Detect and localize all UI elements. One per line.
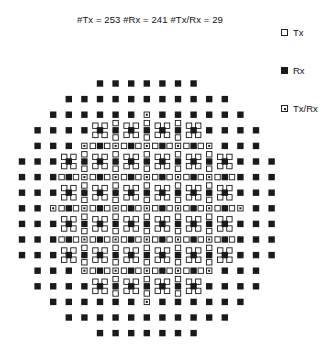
rx-element bbox=[128, 205, 134, 211]
rx-element bbox=[159, 143, 165, 149]
tx-element bbox=[175, 276, 180, 281]
tx-element bbox=[144, 183, 149, 188]
rx-element bbox=[190, 80, 196, 86]
rx-element bbox=[253, 158, 259, 164]
rx-element bbox=[97, 268, 103, 274]
rx-element bbox=[159, 268, 165, 274]
rx-element bbox=[128, 80, 134, 86]
tx-element bbox=[113, 152, 118, 157]
rx-element bbox=[253, 143, 259, 149]
rx-element bbox=[222, 299, 228, 305]
rx-element bbox=[34, 158, 40, 164]
rx-element bbox=[253, 127, 259, 133]
rx-element bbox=[128, 252, 134, 258]
rx-element bbox=[222, 252, 228, 258]
tx-element bbox=[113, 135, 118, 140]
rx-element bbox=[34, 127, 40, 133]
rx-element bbox=[253, 236, 259, 242]
tx-element bbox=[207, 260, 212, 265]
txrx-dot bbox=[52, 207, 54, 209]
rx-element bbox=[175, 112, 181, 118]
tx-element bbox=[184, 206, 189, 211]
tx-element bbox=[113, 197, 118, 202]
tx-element bbox=[136, 174, 141, 179]
tx-element bbox=[82, 197, 87, 202]
tx-element bbox=[105, 237, 110, 242]
rx-element bbox=[97, 252, 103, 258]
rx-element bbox=[268, 158, 274, 164]
rx-element bbox=[175, 252, 181, 258]
rx-element bbox=[237, 299, 243, 305]
rx-element bbox=[97, 143, 103, 149]
rx-element bbox=[97, 158, 103, 164]
txrx-dot bbox=[115, 239, 117, 241]
tx-element bbox=[136, 268, 141, 273]
rx-element bbox=[66, 236, 72, 242]
rx-element bbox=[128, 96, 134, 102]
tx-element bbox=[82, 214, 87, 219]
rx-element bbox=[81, 221, 87, 227]
rx-element bbox=[237, 190, 243, 196]
tx-element bbox=[113, 166, 118, 171]
tx-element bbox=[82, 166, 87, 171]
tx-element bbox=[144, 214, 149, 219]
rx-element bbox=[81, 190, 87, 196]
rx-element bbox=[206, 190, 212, 196]
rx-element bbox=[237, 127, 243, 133]
rx-element bbox=[19, 236, 25, 242]
txrx-dot bbox=[83, 270, 85, 272]
tx-element bbox=[215, 174, 220, 179]
rx-element bbox=[175, 283, 181, 289]
rx-element bbox=[222, 96, 228, 102]
tx-element bbox=[82, 228, 87, 233]
txrx-dot bbox=[146, 207, 148, 209]
rx-element bbox=[112, 96, 118, 102]
tx-element bbox=[207, 228, 212, 233]
rx-element bbox=[222, 143, 228, 149]
rx-element bbox=[112, 190, 118, 196]
tx-element bbox=[175, 291, 180, 296]
rx-element bbox=[144, 190, 150, 196]
rx-element bbox=[144, 158, 150, 164]
rx-element bbox=[175, 330, 181, 336]
txrx-dot bbox=[208, 270, 210, 272]
rx-element bbox=[97, 205, 103, 211]
rx-element bbox=[159, 283, 165, 289]
rx-element bbox=[237, 174, 243, 180]
rx-element bbox=[237, 143, 243, 149]
rx-element bbox=[50, 190, 56, 196]
rx-element bbox=[66, 283, 72, 289]
rx-element bbox=[206, 283, 212, 289]
tx-element bbox=[207, 197, 212, 202]
rx-element bbox=[128, 158, 134, 164]
rx-element bbox=[97, 190, 103, 196]
rx-element bbox=[66, 221, 72, 227]
rx-element bbox=[128, 143, 134, 149]
rx-element bbox=[175, 80, 181, 86]
rx-element bbox=[128, 330, 134, 336]
rx-element bbox=[144, 252, 150, 258]
rx-element bbox=[237, 112, 243, 118]
rx-element bbox=[190, 236, 196, 242]
tx-element bbox=[207, 152, 212, 157]
rx-element bbox=[66, 268, 72, 274]
tx-element bbox=[207, 183, 212, 188]
rx-element bbox=[190, 143, 196, 149]
txrx-dot bbox=[177, 176, 179, 178]
rx-element bbox=[81, 314, 87, 320]
rx-element bbox=[97, 96, 103, 102]
rx-element bbox=[128, 283, 134, 289]
rx-element bbox=[128, 236, 134, 242]
rx-element bbox=[81, 96, 87, 102]
rx-element bbox=[128, 112, 134, 118]
tx-element bbox=[153, 143, 158, 148]
tx-element bbox=[144, 228, 149, 233]
rx-element bbox=[50, 252, 56, 258]
rx-element bbox=[34, 143, 40, 149]
rx-element bbox=[50, 236, 56, 242]
rx-element bbox=[66, 174, 72, 180]
rx-element bbox=[112, 158, 118, 164]
tx-element bbox=[73, 206, 78, 211]
tx-element bbox=[90, 268, 95, 273]
rx-element bbox=[66, 314, 72, 320]
